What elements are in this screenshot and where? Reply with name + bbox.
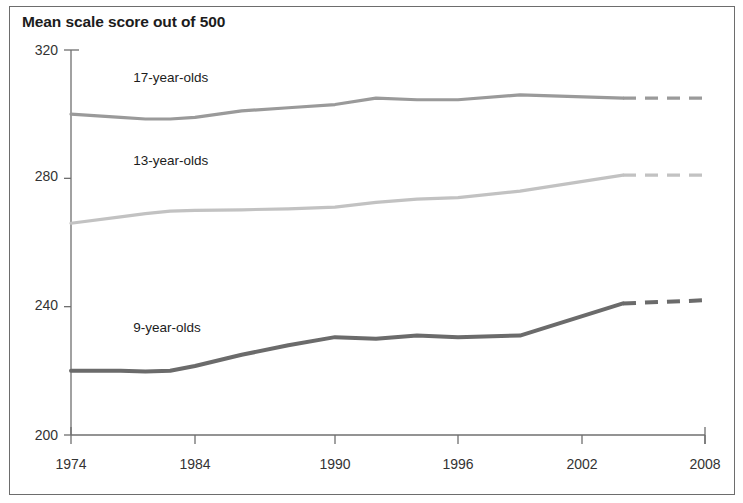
series-line-dashed-9-year-olds: [623, 300, 705, 303]
plot-area: [0, 0, 743, 503]
series-line-13-year-olds: [71, 175, 623, 223]
chart-figure: Mean scale score out of 500 320 280 240 …: [0, 0, 743, 503]
series-line-17-year-olds: [71, 95, 623, 119]
series-line-9-year-olds: [71, 303, 623, 371]
